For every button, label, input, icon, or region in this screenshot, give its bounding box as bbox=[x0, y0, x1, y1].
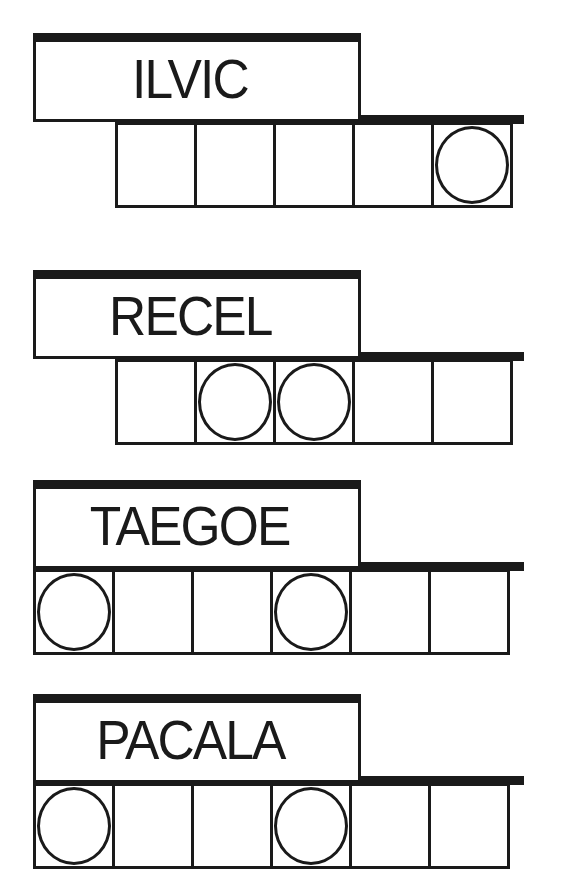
scrambled-word-box: TAEGOE bbox=[33, 480, 361, 569]
letter-square-6[interactable] bbox=[428, 569, 510, 655]
answer-row bbox=[33, 783, 510, 869]
letter-square-3-circled[interactable] bbox=[273, 359, 355, 445]
scrambled-word-box: ILVIC bbox=[33, 33, 361, 122]
letter-square-1-circled[interactable] bbox=[33, 783, 115, 869]
letter-square-6[interactable] bbox=[428, 783, 510, 869]
letter-square-2[interactable] bbox=[112, 569, 194, 655]
letter-square-5[interactable] bbox=[431, 359, 513, 445]
circle-marker-icon bbox=[274, 573, 348, 651]
letter-square-2[interactable] bbox=[194, 122, 276, 208]
letter-square-3[interactable] bbox=[191, 569, 273, 655]
jumble-word-1: ILVIC bbox=[33, 33, 524, 209]
letter-square-2[interactable] bbox=[112, 783, 194, 869]
circle-marker-icon bbox=[37, 573, 111, 651]
letter-square-3[interactable] bbox=[273, 122, 355, 208]
circle-marker-icon bbox=[274, 787, 348, 865]
answer-row bbox=[115, 122, 513, 208]
jumble-word-4: PACALA bbox=[33, 694, 524, 870]
jumble-word-2: RECEL bbox=[33, 270, 524, 446]
scrambled-word: TAEGOE bbox=[90, 498, 290, 554]
scrambled-word-box: PACALA bbox=[33, 694, 361, 783]
scrambled-word: RECEL bbox=[109, 288, 272, 344]
letter-square-4-circled[interactable] bbox=[270, 569, 352, 655]
letter-square-2-circled[interactable] bbox=[194, 359, 276, 445]
letter-square-5[interactable] bbox=[349, 783, 431, 869]
circle-marker-icon bbox=[198, 363, 272, 441]
circle-marker-icon bbox=[435, 126, 509, 204]
letter-square-1-circled[interactable] bbox=[33, 569, 115, 655]
answer-row bbox=[115, 359, 513, 445]
scrambled-word: ILVIC bbox=[132, 51, 248, 107]
letter-square-5[interactable] bbox=[349, 569, 431, 655]
circle-marker-icon bbox=[277, 363, 351, 441]
letter-square-4[interactable] bbox=[352, 359, 434, 445]
circle-marker-icon bbox=[37, 787, 111, 865]
letter-square-4-circled[interactable] bbox=[270, 783, 352, 869]
letter-square-1[interactable] bbox=[115, 359, 197, 445]
scrambled-word: PACALA bbox=[96, 712, 284, 768]
letter-square-1[interactable] bbox=[115, 122, 197, 208]
letter-square-5-circled[interactable] bbox=[431, 122, 513, 208]
jumble-word-3: TAEGOE bbox=[33, 480, 524, 656]
scrambled-word-box: RECEL bbox=[33, 270, 361, 359]
letter-square-3[interactable] bbox=[191, 783, 273, 869]
answer-row bbox=[33, 569, 510, 655]
letter-square-4[interactable] bbox=[352, 122, 434, 208]
